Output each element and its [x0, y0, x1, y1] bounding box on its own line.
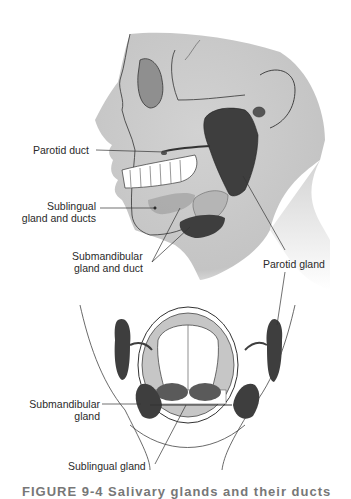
figure-caption: FIGURE 9-4 Salivary glands and their duc… — [22, 484, 331, 499]
parotid-gland-front-right — [267, 319, 283, 382]
label-parotid-duct: Parotid duct — [33, 144, 89, 156]
label-sublingual-gland-ducts-2: gland and ducts — [10, 212, 96, 224]
label-parotid-gland: Parotid gland — [263, 258, 325, 270]
sublingual-gland-front-left — [156, 383, 188, 401]
label-sublingual-gland-ducts-1: Sublingual — [20, 200, 96, 212]
label-submandibular-gland-2: gland — [20, 410, 100, 422]
sublingual-gland-front-right — [189, 383, 221, 401]
parotid-gland-front-left — [115, 319, 131, 380]
front-view — [80, 305, 295, 470]
label-submandibular-duct-2: gland and duct — [74, 262, 143, 274]
label-submandibular-duct-1: Submandibular — [72, 250, 143, 262]
submandibular-gland-front-right — [233, 384, 259, 419]
label-submandibular-gland-1: Submandibular — [20, 398, 100, 410]
label-sublingual-gland: Sublingual gland — [68, 460, 146, 472]
